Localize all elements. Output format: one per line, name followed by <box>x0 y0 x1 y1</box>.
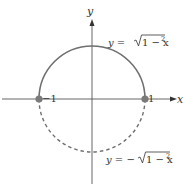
lower-equation: y = − 1 − x 2 <box>105 152 173 165</box>
semicircle-diagram: y x −1 1 y = 1 − x 2 y = − 1 − x 2 <box>0 0 185 186</box>
x-axis-arrow-icon <box>170 97 177 102</box>
y-axis-label: y <box>86 5 94 18</box>
svg-text:y = −: y = − <box>105 154 135 165</box>
lower-exponent: 2 <box>166 152 170 160</box>
svg-text:y =: y = <box>107 37 125 48</box>
x-axis-label: x <box>177 93 184 106</box>
upper-equation: y = 1 − x 2 <box>107 35 169 48</box>
point-label-one: 1 <box>148 93 154 104</box>
y-axis-arrow-icon <box>90 19 95 26</box>
point-label-neg-one: −1 <box>42 93 57 104</box>
upper-exponent: 2 <box>161 35 165 43</box>
